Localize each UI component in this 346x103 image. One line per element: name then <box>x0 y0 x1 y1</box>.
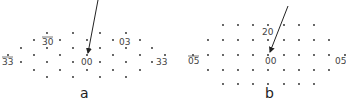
diffraction-spot <box>164 54 166 56</box>
diffraction-spot <box>222 83 224 85</box>
diffraction-spot <box>207 54 209 56</box>
spot-index-label: 03 <box>119 37 130 47</box>
spot-index-label: 00 <box>81 57 93 67</box>
diffraction-spot <box>298 54 300 56</box>
diffraction-spot <box>252 39 254 41</box>
diffraction-spot <box>313 39 315 41</box>
diffraction-spot <box>298 69 300 71</box>
spot-index-label: 33 <box>2 57 13 67</box>
diffraction-spot <box>139 69 141 71</box>
spot-index-label: 33 <box>156 57 167 67</box>
diffraction-spot <box>33 69 35 71</box>
diffraction-spot <box>46 76 48 78</box>
diffraction-spot <box>86 39 88 41</box>
diffraction-spot <box>328 39 330 41</box>
diffraction-spot <box>46 32 48 34</box>
diffraction-spot <box>112 39 114 41</box>
diffraction-spot <box>7 54 9 56</box>
diffraction-spot <box>72 47 74 49</box>
diffraction-spot <box>298 24 300 26</box>
diffraction-spot <box>237 24 239 26</box>
diffraction-spot <box>298 39 300 41</box>
diffraction-spot <box>72 76 74 78</box>
diffraction-spot <box>151 47 153 49</box>
diffraction-spot <box>46 47 48 49</box>
spot-index-label: 20 <box>262 27 274 37</box>
diffraction-spot <box>20 61 22 63</box>
diffraction-spot <box>283 24 285 26</box>
diffraction-spot <box>86 54 88 56</box>
spot-index-label: 05 <box>335 56 346 66</box>
diffraction-spot <box>125 61 127 63</box>
diffraction-spot <box>59 54 61 56</box>
diffraction-spot <box>222 69 224 71</box>
diffraction-spot <box>328 69 330 71</box>
panel-a-caption: a <box>80 85 89 101</box>
diffraction-spot <box>207 69 209 71</box>
diffraction-spot <box>112 69 114 71</box>
diffraction-spot <box>59 69 61 71</box>
diffraction-spot <box>222 39 224 41</box>
diffraction-spot <box>125 76 127 78</box>
diffraction-spot <box>267 69 269 71</box>
spot-index-label: 05 <box>188 56 199 66</box>
diffraction-figure: 3003330033 20050005 a b <box>0 0 346 103</box>
diffraction-spot <box>112 54 114 56</box>
diffraction-spot <box>252 83 254 85</box>
diffraction-spot <box>72 32 74 34</box>
spot-index-label: 00 <box>265 56 277 66</box>
diffraction-spot <box>237 83 239 85</box>
diffraction-spot <box>222 54 224 56</box>
diffraction-spot <box>139 39 141 41</box>
diffraction-spot <box>252 54 254 56</box>
diffraction-spot <box>33 39 35 41</box>
diffraction-spot <box>298 83 300 85</box>
diffraction-spot <box>237 39 239 41</box>
diffraction-spot <box>99 32 101 34</box>
diffraction-spot <box>151 61 153 63</box>
diffraction-spot <box>99 47 101 49</box>
diffraction-spot <box>20 47 22 49</box>
diffraction-spot <box>139 54 141 56</box>
diffraction-spot <box>72 61 74 63</box>
diffraction-spot <box>86 69 88 71</box>
diffraction-spot <box>125 32 127 34</box>
diffraction-spot <box>125 47 127 49</box>
diffraction-spot <box>99 61 101 63</box>
diffraction-spot <box>99 76 101 78</box>
diffraction-spot <box>207 39 209 41</box>
diffraction-spot <box>283 39 285 41</box>
diffraction-spot <box>313 54 315 56</box>
diffraction-spot <box>283 54 285 56</box>
diffraction-spot <box>237 54 239 56</box>
beam-arrow-icon <box>88 0 98 53</box>
diffraction-spot <box>33 54 35 56</box>
diffraction-spot <box>313 69 315 71</box>
diffraction-spot <box>283 83 285 85</box>
panel-a: 3003330033 <box>2 0 167 78</box>
diffraction-spot <box>237 69 239 71</box>
panel-b: 20050005 <box>188 6 346 85</box>
diffraction-spot <box>283 69 285 71</box>
panel-b-caption: b <box>265 85 274 101</box>
diffraction-spot <box>252 24 254 26</box>
diffraction-spot <box>59 39 61 41</box>
diffraction-spot <box>328 54 330 56</box>
diffraction-spot <box>46 61 48 63</box>
diffraction-spot <box>222 24 224 26</box>
diffraction-spot <box>313 24 315 26</box>
spot-index-label: 30 <box>42 37 54 47</box>
diffraction-spot <box>313 83 315 85</box>
diffraction-spot <box>267 24 269 26</box>
diffraction-spot <box>252 69 254 71</box>
diffraction-spot <box>267 39 269 41</box>
